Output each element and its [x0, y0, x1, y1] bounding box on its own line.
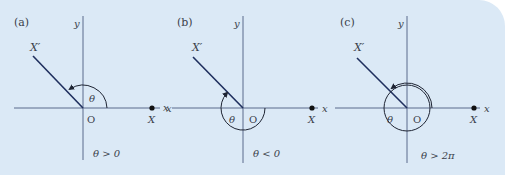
terminal-ray	[193, 57, 243, 108]
origin-label: O	[87, 114, 95, 125]
angle-label: θ	[229, 114, 235, 125]
panel-b: (b) x y x X′ θ O X θ < 0	[166, 16, 328, 163]
panel-c: (c) y x X′ θ O X θ > 2π	[335, 16, 490, 163]
terminal-ray	[357, 58, 407, 108]
point-x-dot	[309, 105, 314, 110]
panel-b-label: (b)	[177, 16, 193, 29]
origin-label: O	[413, 114, 421, 125]
angle-diagrams: (a) y x X′ θ O X θ > 0 (b) x y x X′ θ O …	[0, 0, 505, 175]
terminal-label: X′	[29, 41, 41, 54]
y-axis-label: y	[233, 18, 240, 29]
angle-label: θ	[387, 114, 393, 125]
panel-c-label: (c)	[340, 16, 355, 29]
condition-label: θ < 0	[253, 148, 281, 159]
origin-label: O	[249, 114, 257, 125]
y-axis-label: y	[73, 18, 80, 29]
initial-label: X	[469, 114, 478, 125]
initial-label: X	[147, 114, 156, 125]
panel-a-label: (a)	[14, 16, 29, 29]
point-x-dot	[471, 105, 476, 110]
x-axis-label: x	[484, 103, 490, 114]
terminal-label: X′	[191, 41, 203, 54]
neg-x-axis-label: x	[166, 103, 172, 114]
initial-label: X	[307, 114, 316, 125]
angle-label: θ	[89, 93, 95, 104]
point-x-dot	[149, 105, 154, 110]
panel-a: (a) y x X′ θ O X θ > 0	[14, 16, 169, 160]
terminal-ray	[33, 56, 83, 108]
x-axis-label: x	[322, 103, 328, 114]
condition-label: θ > 2π	[421, 150, 455, 161]
condition-label: θ > 0	[93, 148, 121, 159]
terminal-label: X′	[353, 41, 365, 54]
y-axis-label: y	[397, 18, 404, 29]
